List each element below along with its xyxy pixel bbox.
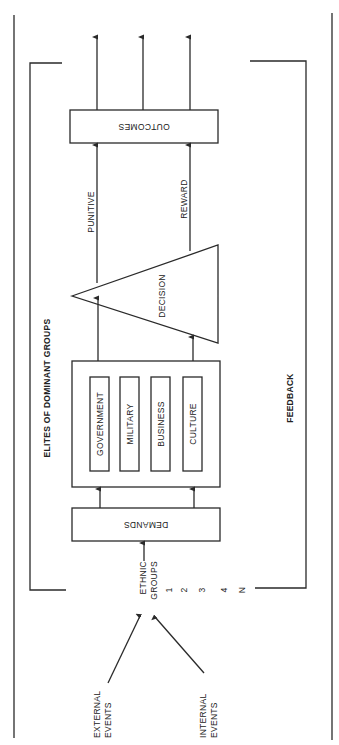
demands-box: DEMANDS (72, 508, 220, 541)
sector-culture: CULTURE (183, 377, 202, 471)
sector-culture-label: CULTURE (188, 403, 198, 445)
external-events-label: EXTERNAL EVENTS (92, 691, 113, 738)
sector-business: BUSINESS (151, 377, 170, 471)
sector-government: GOVERNMENT (90, 377, 109, 471)
sector-government-label: GOVERNMENT (95, 392, 105, 456)
elites-box: GOVERNMENT MILITARY BUSINESS CULTURE (72, 361, 220, 487)
demands-label: DEMANDS (124, 520, 169, 530)
sector-military: MILITARY (120, 377, 139, 471)
external-events-label-line2: EVENTS (103, 702, 113, 738)
ethnic-group-1: 1 (164, 587, 174, 592)
sector-business-label: BUSINESS (156, 401, 166, 446)
internal-events-label-line2: EVENTS (209, 702, 219, 738)
external-events-label-line1: EXTERNAL (92, 691, 102, 738)
internal-events-label: INTERNAL EVENTS (198, 694, 219, 738)
outcomes-label: OUTCOMES (118, 122, 170, 132)
elite-decision-diagram: OUTCOMES PUNITIVE REWARD DECISION ELITES… (0, 0, 339, 745)
ethnic-groups-label: ETHNIC GROUPS (138, 561, 159, 600)
elites-title: ELITES OF DOMINANT GROUPS (42, 319, 52, 458)
decision-triangle: DECISION (72, 245, 218, 343)
ethnic-group-3: 3 (197, 587, 207, 592)
reward-label: REWARD (179, 179, 189, 218)
outcomes-box: OUTCOMES (70, 110, 218, 143)
sector-military-label: MILITARY (125, 404, 135, 445)
external-events-arrow (108, 616, 140, 683)
feedback-label: FEEDBACK (285, 373, 295, 423)
ethnic-group-n: N (237, 587, 247, 593)
internal-events-arrow (155, 617, 204, 673)
internal-events-label-line1: INTERNAL (198, 694, 208, 738)
ethnic-groups-label-line2: GROUPS (149, 561, 159, 600)
ethnic-group-2: 2 (179, 587, 189, 592)
punitive-label: PUNITIVE (86, 191, 96, 233)
ethnic-groups-label-line1: ETHNIC (138, 561, 148, 594)
ethnic-group-4: 4 (219, 587, 229, 592)
feedback-loop-line (250, 61, 306, 588)
decision-label: DECISION (157, 274, 167, 318)
